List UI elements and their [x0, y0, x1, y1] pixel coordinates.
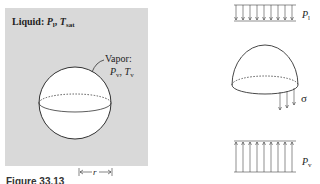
figure-caption: Figure 33.13	[6, 176, 64, 184]
vapor-bubble	[39, 67, 111, 139]
liquid-pressure-label: Pl	[301, 9, 310, 22]
svg-text:r: r	[93, 167, 97, 177]
bubble-diagram: Liquid: Pl, Tsat Vapor: Pv, Tv r Pl	[0, 0, 320, 184]
vapor-pressure-arrows	[234, 141, 296, 172]
surface-tension-label: σ	[301, 92, 307, 104]
vapor-pressure-label: Pv	[301, 156, 312, 169]
liquid-pressure-arrows	[234, 5, 296, 21]
vapor-label: Vapor:	[105, 53, 132, 64]
hemisphere-dome	[232, 45, 298, 85]
surface-tension-arrows	[279, 88, 296, 110]
hemisphere-front-edge	[232, 85, 298, 94]
radius-dimension: r	[79, 167, 112, 177]
